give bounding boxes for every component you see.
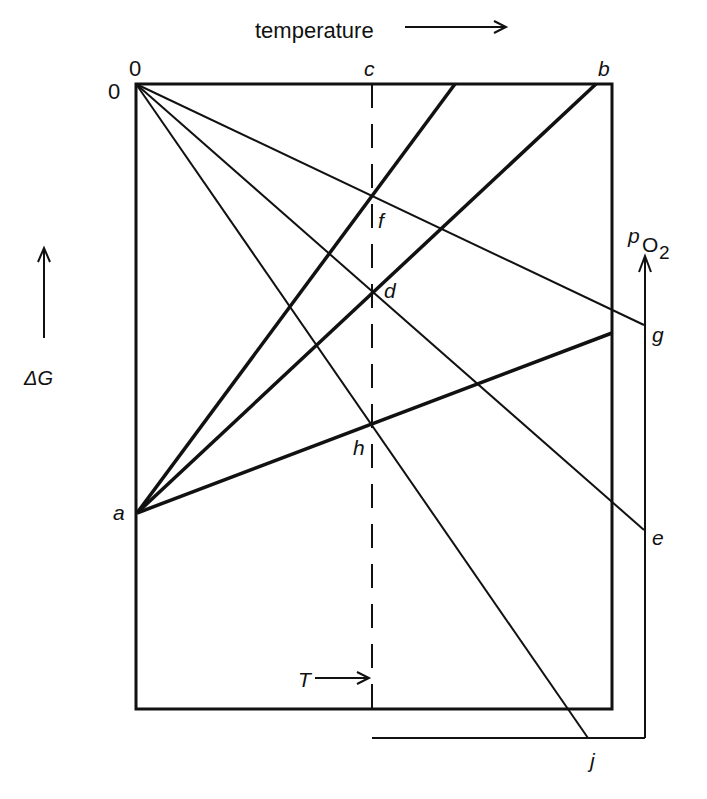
po2-axis-label-p: p [627, 224, 640, 247]
x-axis-label: temperature [255, 18, 374, 43]
origin-top-label: 0 [129, 56, 141, 81]
point-label-h: h [353, 436, 365, 459]
point-label-f: f [378, 209, 386, 232]
point-label-a: a [113, 501, 125, 524]
point-label-j: j [587, 749, 596, 772]
point-label-g: g [652, 323, 664, 346]
temperature-marker-label: T [298, 668, 313, 691]
line-0-e [136, 84, 644, 530]
point-label-c: c [364, 57, 375, 80]
y-axis-label: ΔG [23, 367, 53, 389]
line-a-b [137, 84, 596, 513]
point-label-b: b [598, 57, 610, 80]
plot-frame [136, 84, 612, 709]
po2-axis-label-2: 2 [659, 242, 670, 263]
line-0-j [136, 84, 588, 738]
line-a-top [137, 84, 455, 513]
line-a-right [137, 333, 612, 513]
y-axis-arrow-icon [38, 248, 50, 338]
point-label-e: e [652, 526, 664, 549]
origin-left-label: 0 [108, 79, 120, 104]
po2-axis-label-o: O [642, 233, 658, 256]
temperature-marker-arrow-icon [315, 672, 369, 684]
point-label-d: d [384, 279, 397, 302]
ellingham-style-diagram: temperature ΔG 0 0 p O 2 T c b f d h a g [0, 0, 707, 799]
x-axis-arrow-icon [405, 21, 506, 33]
